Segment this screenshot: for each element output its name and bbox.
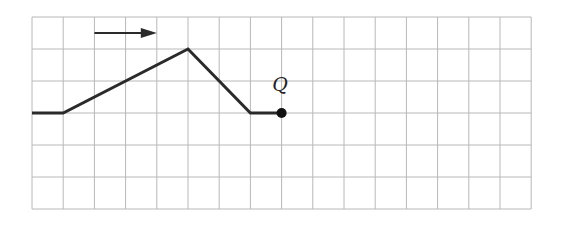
point-q-dot: [277, 108, 287, 118]
grid-diagram: Q: [0, 0, 565, 231]
point-q-label: Q: [272, 73, 288, 95]
